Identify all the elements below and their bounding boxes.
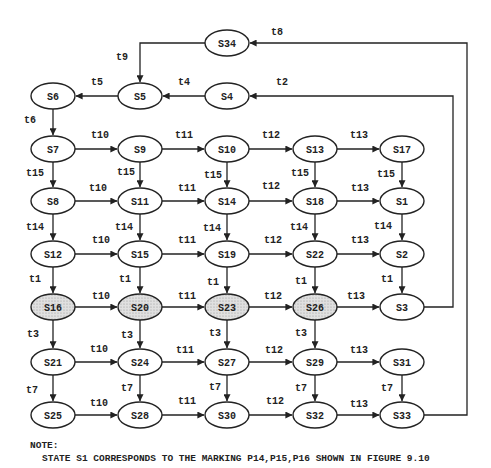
state-node-s14: S14: [205, 188, 249, 214]
state-graph: S34S6S5S4S7S9S10S13S17S8S11S14S18S1S12S1…: [0, 0, 491, 468]
state-node-s24: S24: [118, 349, 162, 375]
edge-label: t15: [117, 167, 135, 178]
state-label: S22: [306, 250, 324, 261]
state-node-s33: S33: [380, 402, 424, 428]
state-label: S18: [306, 197, 324, 208]
state-node-s20: S20: [118, 294, 162, 320]
state-node-s8: S8: [31, 188, 75, 214]
edge-label: t15: [26, 168, 44, 179]
edge-label: t10: [89, 183, 107, 194]
state-node-s19: S19: [205, 241, 249, 267]
edge-label: t13: [351, 183, 369, 194]
edge-label: t14: [115, 222, 133, 233]
edge-label: t12: [265, 345, 283, 356]
edge-label: t11: [176, 345, 194, 356]
state-label: S15: [131, 250, 149, 261]
state-label: S23: [218, 303, 236, 314]
edge-label: t1: [29, 274, 41, 285]
state-label: S29: [306, 358, 324, 369]
state-label: S14: [218, 197, 236, 208]
state-node-s15: S15: [118, 241, 162, 267]
state-label: S8: [47, 197, 59, 208]
state-label: S11: [131, 197, 149, 208]
state-label: S30: [218, 411, 236, 422]
edge-label: t10: [91, 130, 109, 141]
state-label: S21: [44, 358, 62, 369]
state-label: S12: [44, 250, 62, 261]
state-label: S24: [131, 358, 149, 369]
state-node-s16: S16: [31, 294, 75, 320]
edge-label: t7: [26, 385, 38, 396]
edge-label: t10: [92, 235, 110, 246]
state-node-s7: S7: [31, 136, 75, 162]
state-node-s4: S4: [205, 83, 249, 109]
edge-label: t11: [178, 183, 196, 194]
edge-label: t11: [178, 235, 196, 246]
state-label: S33: [393, 411, 411, 422]
state-node-s22: S22: [293, 241, 337, 267]
edge-label: t12: [264, 291, 282, 302]
state-node-s18: S18: [293, 188, 337, 214]
edge-label: t1: [119, 274, 131, 285]
state-label: S10: [218, 145, 236, 156]
edge-label: t11: [175, 130, 193, 141]
edge-label: t3: [209, 328, 221, 339]
state-node-s13: S13: [293, 136, 337, 162]
state-node-s28: S28: [118, 402, 162, 428]
note-text: STATE S1 CORRESPONDS TO THE MARKING P14,…: [42, 453, 430, 464]
edge-labels-layer: t9t5t4t6t10t11t12t13t15t15t15t15t15t10t1…: [24, 27, 395, 410]
edge-label: t1: [381, 274, 393, 285]
edge-label: t1: [207, 277, 219, 288]
edge-label: t2: [276, 77, 288, 88]
edge-label: t1: [295, 276, 307, 287]
state-node-s30: S30: [205, 402, 249, 428]
state-node-s34: S34: [205, 30, 249, 56]
state-node-s2: S2: [380, 241, 424, 267]
state-node-s25: S25: [31, 402, 75, 428]
state-node-s29: S29: [293, 349, 337, 375]
edge-label: t3: [27, 329, 39, 340]
state-label: S25: [44, 411, 62, 422]
state-node-s5: S5: [118, 83, 162, 109]
state-node-s12: S12: [31, 241, 75, 267]
state-label: S20: [131, 303, 149, 314]
state-label: S28: [131, 411, 149, 422]
edge-label: t14: [374, 221, 392, 232]
edge-label: t12: [266, 396, 284, 407]
edge-label: t12: [264, 235, 282, 246]
state-node-s31: S31: [380, 349, 424, 375]
state-node-s3: S3: [380, 294, 424, 320]
edge-label: t8: [271, 27, 283, 38]
state-label: S13: [306, 145, 324, 156]
edge-s33-s34: [250, 43, 467, 415]
state-label: S19: [218, 250, 236, 261]
state-node-s11: S11: [118, 188, 162, 214]
edge-label: t13: [347, 291, 365, 302]
edge-label: t12: [262, 130, 280, 141]
state-node-s27: S27: [205, 349, 249, 375]
state-node-s10: S10: [205, 136, 249, 162]
edge-label: t4: [178, 77, 190, 88]
state-label: S31: [393, 358, 411, 369]
edge-label: t9: [116, 52, 128, 63]
state-node-s23: S23: [205, 294, 249, 320]
edge-label: t11: [178, 396, 196, 407]
edge-label: t7: [381, 383, 393, 394]
edge-label: t3: [121, 330, 133, 341]
state-label: S3: [396, 303, 408, 314]
edge-label: t13: [351, 235, 369, 246]
edge-label: t13: [350, 345, 368, 356]
edge-label: t15: [204, 170, 222, 181]
state-node-s26: S26: [293, 294, 337, 320]
state-label: S9: [134, 145, 146, 156]
edge-label: t7: [121, 383, 133, 394]
edge-label: t14: [26, 222, 44, 233]
edge-label: t13: [350, 130, 368, 141]
edge-label: t15: [377, 169, 395, 180]
state-label: S26: [306, 303, 324, 314]
edge-label: t10: [90, 344, 108, 355]
edge-label: t6: [24, 115, 36, 126]
state-label: S2: [396, 250, 408, 261]
state-node-s21: S21: [31, 349, 75, 375]
state-label: S17: [393, 145, 411, 156]
